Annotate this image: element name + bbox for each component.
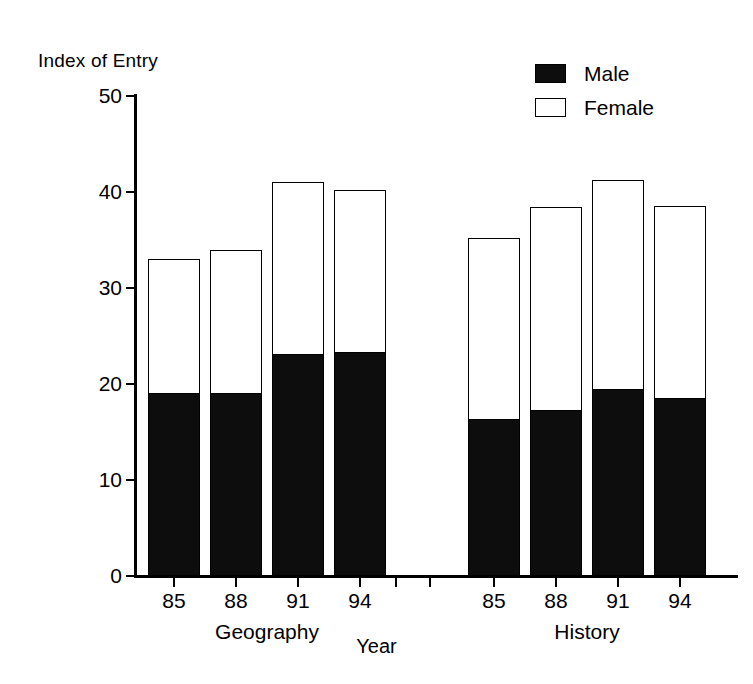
x-axis-tick xyxy=(493,578,495,587)
bar-segment-male xyxy=(149,393,199,575)
x-axis-tick xyxy=(555,578,557,587)
bar-segment-male xyxy=(655,398,705,575)
bars-layer xyxy=(0,0,753,576)
x-axis-title: Year xyxy=(0,635,753,658)
x-axis-tick xyxy=(429,578,431,587)
x-axis-tick-label: 94 xyxy=(650,590,710,612)
x-axis-tick-label: 91 xyxy=(588,590,648,612)
stacked-bar xyxy=(148,259,200,576)
x-axis-tick xyxy=(359,578,361,587)
stacked-bar xyxy=(468,238,520,576)
bar-segment-male xyxy=(531,410,581,575)
x-axis-tick-label: 85 xyxy=(144,590,204,612)
x-axis-tick xyxy=(395,578,397,587)
bar-segment-male xyxy=(211,393,261,575)
x-axis-tick-label: 94 xyxy=(330,590,390,612)
x-axis-tick xyxy=(617,578,619,587)
bar-segment-male xyxy=(273,354,323,575)
bar-segment-male xyxy=(469,419,519,575)
stacked-bar xyxy=(654,206,706,576)
stacked-bar xyxy=(210,250,262,576)
bar-segment-male xyxy=(593,389,643,575)
x-axis-tick xyxy=(297,578,299,587)
stacked-bar xyxy=(530,207,582,576)
bar-segment-male xyxy=(335,352,385,575)
bar-chart: Index of Entry Male Female 01020304050 8… xyxy=(0,0,753,684)
stacked-bar xyxy=(272,182,324,576)
stacked-bar xyxy=(334,190,386,576)
x-axis-tick xyxy=(679,578,681,587)
stacked-bar xyxy=(592,180,644,576)
x-axis-tick xyxy=(235,578,237,587)
x-axis-tick-label: 88 xyxy=(526,590,586,612)
x-axis-tick xyxy=(173,578,175,587)
x-axis-tick-label: 91 xyxy=(268,590,328,612)
x-axis-tick-label: 85 xyxy=(464,590,524,612)
x-axis-tick-label: 88 xyxy=(206,590,266,612)
